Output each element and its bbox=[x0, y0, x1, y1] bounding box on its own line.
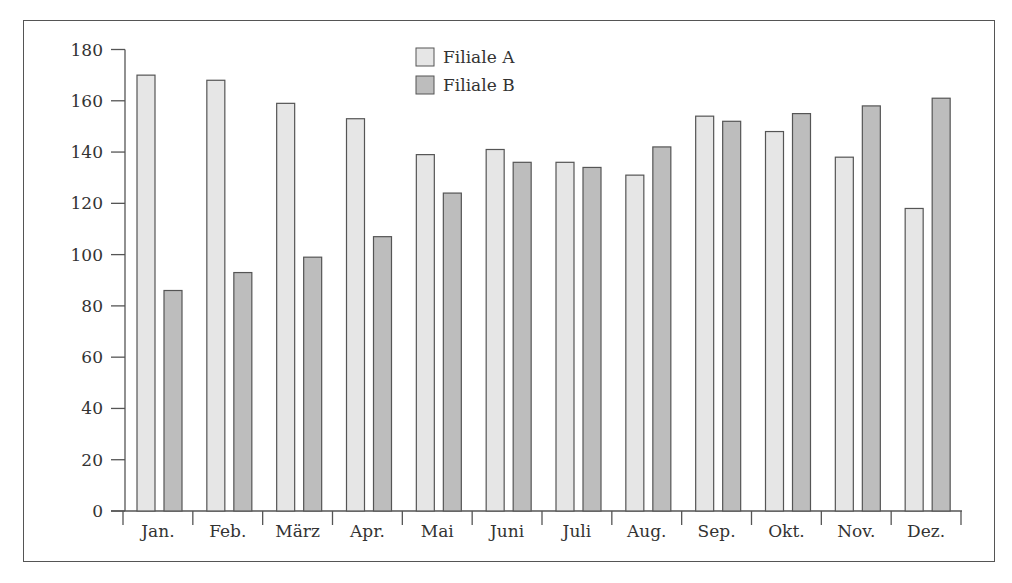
y-tick-label: 60 bbox=[81, 347, 103, 367]
y-tick-label: 20 bbox=[81, 450, 103, 470]
y-tick-label: 120 bbox=[71, 193, 103, 213]
bar-filiale-b bbox=[793, 114, 811, 511]
x-tick-label: März bbox=[275, 521, 320, 541]
bar-filiale-a bbox=[835, 157, 853, 511]
legend: Filiale A Filiale B bbox=[416, 47, 515, 95]
bar-filiale-b bbox=[513, 162, 531, 511]
x-tick-label: Apr. bbox=[349, 521, 385, 541]
x-axis: Jan.Feb.MärzApr.MaiJuniJuliAug.Sep.Okt.N… bbox=[111, 511, 962, 541]
x-tick-label: Dez. bbox=[907, 521, 945, 541]
bar-filiale-a bbox=[347, 119, 365, 511]
bars bbox=[137, 75, 950, 511]
x-tick-label: Mai bbox=[421, 521, 455, 541]
bar-filiale-b bbox=[583, 167, 601, 511]
legend-swatch-b bbox=[416, 76, 434, 94]
legend-swatch-a bbox=[416, 48, 434, 66]
legend-label-a: Filiale A bbox=[443, 47, 515, 67]
bar-filiale-a bbox=[626, 175, 644, 511]
y-tick-label: 40 bbox=[81, 398, 103, 418]
x-tick-label: Jan. bbox=[139, 521, 174, 541]
bar-filiale-b bbox=[443, 193, 461, 511]
bar-chart: 020406080100120140160180 Jan.Feb.MärzApr… bbox=[0, 0, 1012, 583]
bar-filiale-b bbox=[862, 106, 880, 511]
x-tick-label: Aug. bbox=[626, 521, 667, 541]
bar-filiale-b bbox=[304, 257, 322, 511]
y-tick-label: 180 bbox=[71, 40, 103, 60]
x-tick-label: Juli bbox=[561, 521, 592, 541]
bar-filiale-a bbox=[137, 75, 155, 511]
x-tick-label: Okt. bbox=[768, 521, 804, 541]
y-tick-label: 100 bbox=[71, 245, 103, 265]
x-tick-label: Nov. bbox=[837, 521, 875, 541]
y-tick-label: 80 bbox=[81, 296, 103, 316]
y-tick-label: 140 bbox=[71, 142, 103, 162]
y-tick-label: 160 bbox=[71, 91, 103, 111]
bar-filiale-b bbox=[234, 273, 252, 511]
bar-filiale-a bbox=[277, 103, 295, 511]
bar-filiale-b bbox=[164, 291, 182, 511]
bar-filiale-a bbox=[486, 149, 504, 511]
bar-filiale-a bbox=[696, 116, 714, 511]
bar-filiale-b bbox=[932, 98, 950, 511]
y-tick-label: 0 bbox=[92, 501, 103, 521]
bar-filiale-b bbox=[374, 237, 392, 511]
bar-filiale-b bbox=[723, 121, 741, 511]
bar-filiale-a bbox=[556, 162, 574, 511]
bar-filiale-a bbox=[207, 80, 225, 511]
bar-filiale-a bbox=[416, 155, 434, 511]
x-tick-label: Feb. bbox=[209, 521, 246, 541]
bar-filiale-a bbox=[766, 132, 784, 511]
y-axis: 020406080100120140160180 bbox=[71, 40, 125, 522]
bar-filiale-a bbox=[905, 208, 923, 511]
legend-label-b: Filiale B bbox=[443, 75, 515, 95]
bar-filiale-b bbox=[653, 147, 671, 511]
x-tick-label: Sep. bbox=[698, 521, 736, 541]
x-tick-label: Juni bbox=[488, 521, 525, 541]
